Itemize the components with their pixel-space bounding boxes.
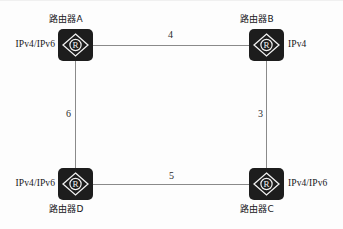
router-icon: R <box>249 168 284 200</box>
router-node-b[interactable]: R <box>249 29 284 61</box>
network-diagram-canvas: 4 3 5 6 R 路由器A IPv4/IPv6 R 路由器B IPv4 R 路… <box>0 0 343 229</box>
link-d-c <box>93 184 249 185</box>
link-cost-d-c: 5 <box>169 170 174 181</box>
link-cost-a-d: 6 <box>66 108 71 119</box>
router-node-b-protocol: IPv4 <box>288 39 306 50</box>
page-top-edge <box>0 0 343 1</box>
router-node-d-protocol: IPv4/IPv6 <box>2 178 55 189</box>
svg-text:R: R <box>263 179 269 189</box>
router-node-a-protocol: IPv4/IPv6 <box>2 39 55 50</box>
svg-text:R: R <box>72 40 78 50</box>
link-b-c <box>266 60 267 168</box>
router-node-d-name: 路由器D <box>49 204 84 215</box>
link-cost-b-c: 3 <box>258 108 263 119</box>
router-node-c-name: 路由器C <box>240 204 274 215</box>
router-node-b-name: 路由器B <box>240 14 274 25</box>
router-icon: R <box>249 29 284 61</box>
link-cost-a-b: 4 <box>168 29 173 40</box>
router-node-d[interactable]: R <box>58 168 93 200</box>
link-a-b <box>93 45 249 46</box>
router-node-c-protocol: IPv4/IPv6 <box>288 178 327 189</box>
router-node-a-name: 路由器A <box>49 14 83 25</box>
svg-text:R: R <box>263 40 269 50</box>
link-a-d <box>75 60 76 168</box>
router-node-a[interactable]: R <box>58 29 93 61</box>
svg-text:R: R <box>72 179 78 189</box>
router-icon: R <box>58 168 93 200</box>
router-icon: R <box>58 29 93 61</box>
router-node-c[interactable]: R <box>249 168 284 200</box>
